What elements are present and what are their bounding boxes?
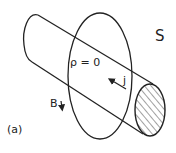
panel-label: (a): [7, 123, 22, 136]
density-label: ρ = 0: [70, 56, 100, 69]
cylinder-top-edge: [38, 15, 153, 84]
field-arrow-icon: [61, 101, 62, 108]
region-label-s: S: [155, 27, 165, 45]
current-label-j: j: [122, 74, 126, 87]
field-label-b: B: [50, 97, 58, 110]
cylinder-cross-section: [135, 84, 165, 136]
conductor-diagram: S ρ = 0 j B (a): [0, 0, 176, 153]
cylinder-back-end: [24, 15, 38, 62]
cylinder-bottom-edge: [32, 62, 143, 134]
